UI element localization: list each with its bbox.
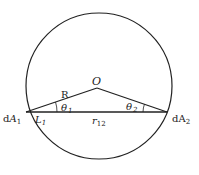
label-dA1: dA1 — [3, 113, 21, 126]
circle-diagram: O R θ1 θ2 dA1 dA2 L1 r12 — [0, 0, 199, 175]
label-dA2: dA2 — [172, 113, 190, 126]
label-r12: r12 — [92, 115, 106, 128]
label-L1: L1 — [34, 114, 46, 127]
angle-arc-theta1 — [56, 102, 58, 112]
label-center-O: O — [92, 75, 101, 88]
diagram-canvas: O R θ1 θ2 dA1 dA2 L1 r12 — [0, 0, 199, 175]
label-theta1: θ1 — [61, 102, 73, 115]
label-radius-R: R — [61, 89, 69, 100]
angle-arc-theta2 — [143, 104, 145, 112]
